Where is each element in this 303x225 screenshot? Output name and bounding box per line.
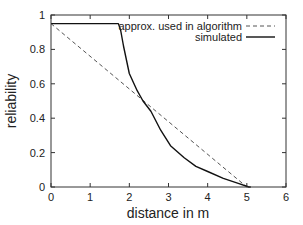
y-tick-label: 1 — [39, 9, 45, 21]
y-tick-label: 0.6 — [30, 78, 45, 90]
x-tick-label: 0 — [48, 191, 54, 203]
legend-label: simulated — [195, 31, 242, 43]
x-tick-label: 1 — [87, 191, 93, 203]
x-tick-label: 2 — [126, 191, 132, 203]
x-tick-label: 3 — [165, 191, 171, 203]
y-tick-label: 0 — [39, 181, 45, 193]
legend: approx. used in algorithmsimulated — [118, 20, 275, 43]
y-tick-label: 0.4 — [30, 112, 45, 124]
x-tick-label: 5 — [244, 191, 250, 203]
y-axis-label: reliability — [3, 74, 19, 128]
y-tick-label: 0.8 — [30, 43, 45, 55]
plot-series — [51, 24, 251, 187]
x-tick-label: 4 — [205, 191, 211, 203]
y-tick-label: 0.2 — [30, 147, 45, 159]
plot-frame — [51, 15, 286, 187]
x-axis-label: distance in m — [127, 205, 209, 221]
svg-text:reliability: reliability — [3, 74, 19, 128]
approx-line — [51, 24, 247, 187]
x-tick-label: 6 — [283, 191, 289, 203]
x-axis-ticks: 0123456 — [48, 15, 289, 203]
reliability-chart: reliability distance in m 00.20.40.60.81… — [0, 0, 303, 225]
